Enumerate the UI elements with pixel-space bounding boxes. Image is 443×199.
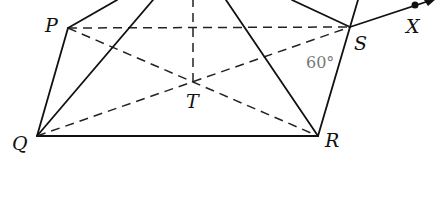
angle-label-60: 60° bbox=[306, 53, 334, 72]
label-S: S bbox=[354, 32, 367, 54]
pyramid-diagram: P Q R S T X 60° bbox=[0, 0, 443, 199]
lateral-edge-R bbox=[226, 0, 318, 136]
edge-PS-hidden bbox=[68, 27, 350, 28]
ray-SX bbox=[350, 0, 432, 27]
label-T: T bbox=[186, 90, 200, 112]
label-X: X bbox=[404, 15, 421, 37]
edge-PQ bbox=[37, 28, 68, 136]
lateral-edge-P bbox=[68, 0, 117, 28]
label-R: R bbox=[324, 129, 339, 151]
label-Q: Q bbox=[12, 132, 28, 154]
lateral-edge-S bbox=[292, 0, 350, 27]
label-P: P bbox=[44, 14, 59, 36]
arrowhead-icon bbox=[424, 0, 436, 6]
extension-S-up bbox=[350, 0, 358, 27]
point-X bbox=[412, 2, 419, 9]
edge-RS bbox=[318, 27, 350, 136]
